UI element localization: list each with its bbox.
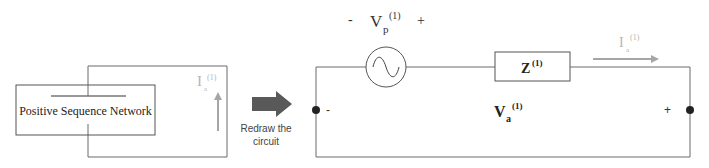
svg-text:Z: Z: [521, 61, 530, 76]
terminal-plus: +: [664, 103, 671, 117]
circuit-diagram: Positive Sequence Network I a (1) Redraw…: [0, 0, 709, 168]
redrawn-circuit: - V p (1) + Z (1) I a (1) - + V a (1): [312, 10, 694, 157]
svg-text:I: I: [197, 73, 202, 89]
svg-text:a: a: [626, 46, 630, 54]
big-arrow-icon: [252, 91, 292, 117]
current-label-left: I a (1): [197, 73, 217, 93]
svg-text:p: p: [383, 23, 389, 35]
svg-text:(1): (1): [630, 33, 640, 42]
redraw-label-line1: Redraw the: [240, 123, 292, 134]
current-label-right: I a (1): [619, 33, 640, 54]
svg-text:(1): (1): [532, 58, 543, 68]
svg-text:V: V: [370, 12, 383, 31]
svg-text:(1): (1): [389, 10, 401, 22]
svg-text:V: V: [494, 103, 506, 120]
svg-text:-: -: [348, 12, 353, 27]
redraw-transition: Redraw the circuit: [240, 91, 292, 147]
svg-text:+: +: [417, 13, 425, 28]
left-terminal-node: [312, 106, 320, 114]
terminal-minus: -: [326, 103, 330, 117]
svg-text:(1): (1): [207, 73, 217, 82]
positive-sequence-network-diagram: Positive Sequence Network I a (1): [16, 66, 227, 157]
svg-text:I: I: [619, 35, 624, 50]
redraw-label-line2: circuit: [253, 136, 279, 147]
network-label: Positive Sequence Network: [19, 104, 152, 118]
svg-text:a: a: [204, 85, 208, 93]
source-voltage-label: - V p (1) +: [348, 10, 425, 35]
ac-voltage-source: [366, 47, 406, 87]
svg-text:a: a: [506, 113, 511, 124]
right-terminal-node: [686, 106, 694, 114]
terminal-voltage-label: V a (1): [494, 101, 523, 124]
svg-text:(1): (1): [512, 101, 523, 111]
